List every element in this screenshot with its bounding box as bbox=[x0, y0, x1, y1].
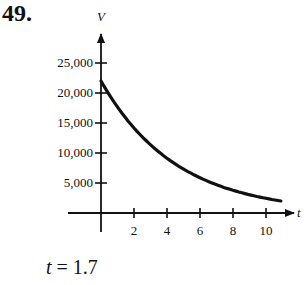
x-tick-label: 8 bbox=[230, 223, 237, 238]
answer: t = 1.7 bbox=[46, 256, 98, 279]
y-tick-label: 15,000 bbox=[57, 115, 93, 130]
answer-value: = 1.7 bbox=[52, 256, 98, 278]
decay-chart: 246810 5,00010,00015,00020,00025,000 t V bbox=[0, 0, 306, 285]
decay-curve bbox=[101, 81, 281, 201]
x-tick-label: 2 bbox=[131, 223, 138, 238]
x-tick-label: 4 bbox=[164, 223, 171, 238]
y-tick-label: 20,000 bbox=[57, 85, 93, 100]
x-tick-label: 10 bbox=[260, 223, 273, 238]
y-tick-label: 25,000 bbox=[57, 55, 93, 70]
y-ticks: 5,00010,00015,00020,00025,000 bbox=[57, 55, 107, 190]
x-axis-label: t bbox=[297, 205, 301, 220]
y-tick-label: 10,000 bbox=[57, 145, 93, 160]
y-tick-label: 5,000 bbox=[64, 175, 93, 190]
x-tick-label: 6 bbox=[197, 223, 204, 238]
y-axis-label: V bbox=[97, 9, 107, 24]
